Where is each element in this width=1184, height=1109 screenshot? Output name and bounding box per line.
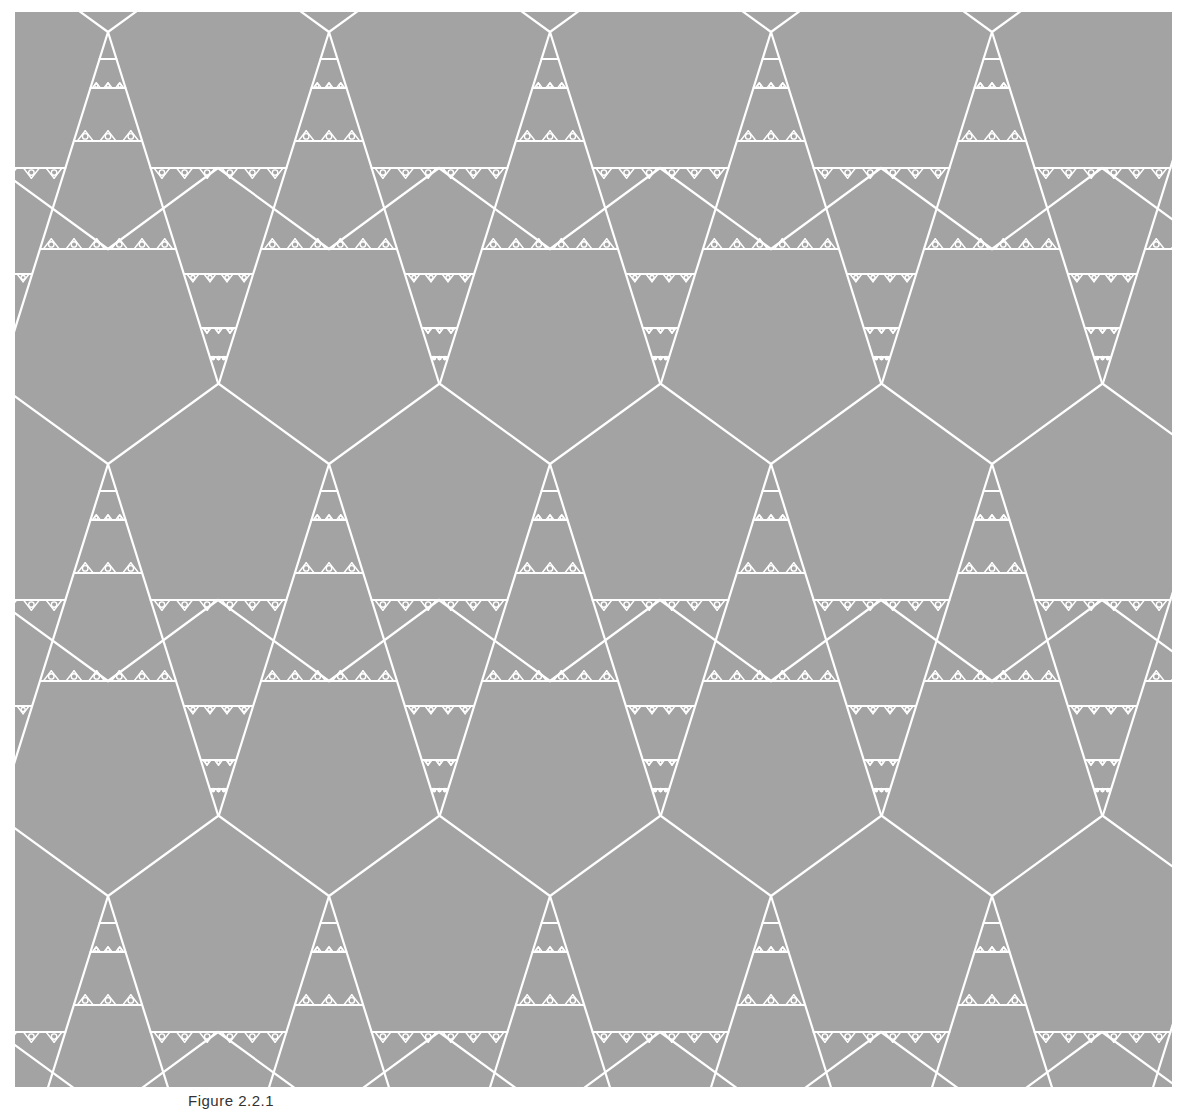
- figure-caption: Figure 2.2.1: [188, 1092, 274, 1109]
- pentagon-tiling-svg: [15, 12, 1172, 1087]
- fractal-pentagon-tiling-figure: [15, 12, 1172, 1087]
